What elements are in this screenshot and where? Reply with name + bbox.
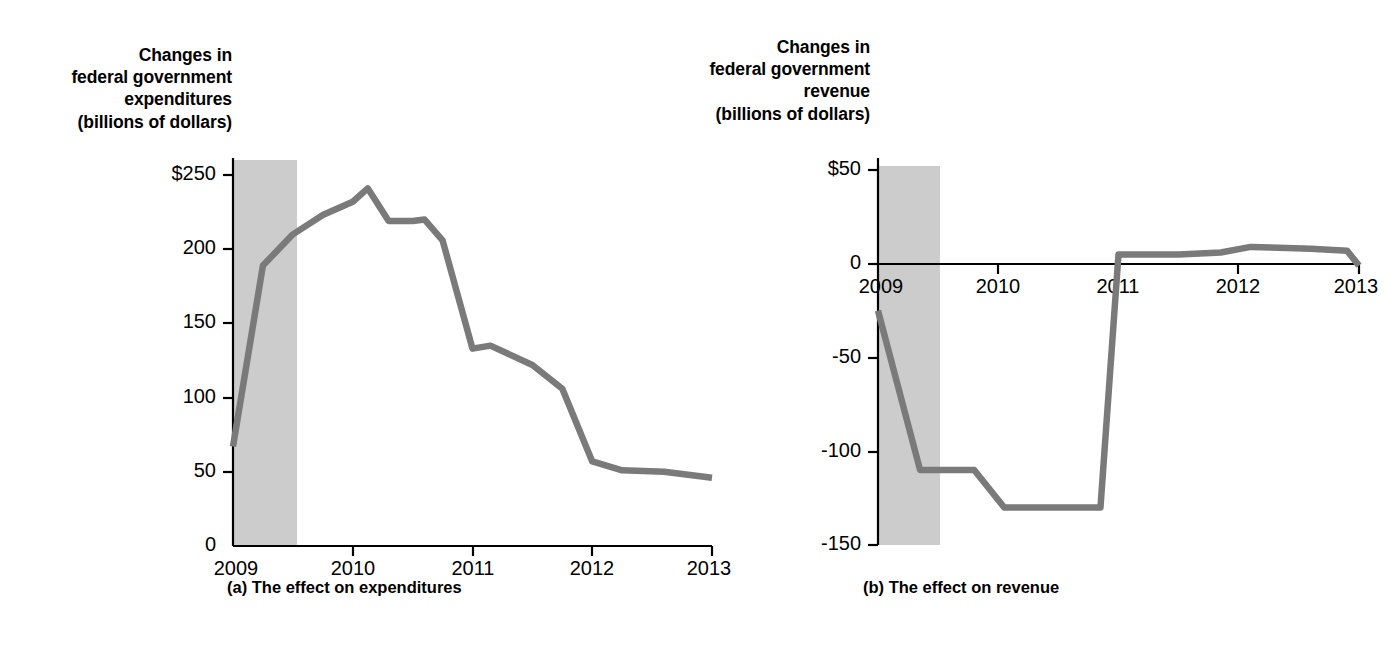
x-tick-marks (998, 264, 1359, 274)
y-tick-label: 0 (850, 251, 861, 273)
x-tick-label: 2010 (331, 557, 376, 579)
x-tick-label: 2013 (1334, 275, 1379, 297)
y-tick-label: -100 (821, 439, 861, 461)
recession-band (233, 160, 297, 546)
y-tick-label: 150 (183, 310, 216, 332)
y-tick-marks (868, 170, 878, 545)
panel-caption-revenue: (b) The effect on revenue (863, 578, 1059, 597)
x-tick-label: 2012 (1216, 275, 1261, 297)
x-tick-marks (353, 546, 712, 556)
data-line-revenue (878, 247, 1359, 508)
plot-area-revenue: $50 0 -50 -100 -150 2009 2010 2011 2012 … (740, 0, 1389, 600)
y-tick-marks (223, 175, 233, 472)
plot-area-expenditures: $250 200 150 100 50 0 2009 2010 2011 201… (0, 0, 740, 600)
y-tick-label: -50 (832, 345, 861, 367)
x-tick-label: 2009 (859, 275, 904, 297)
y-tick-label: $50 (828, 157, 861, 179)
data-line-expenditures (233, 188, 712, 477)
y-tick-label: 200 (183, 236, 216, 258)
x-tick-label: 2011 (451, 557, 494, 579)
x-tick-label: 2010 (976, 275, 1021, 297)
x-tick-label: 2012 (570, 557, 615, 579)
panel-expenditures: Changes in federal government expenditur… (0, 0, 740, 650)
y-tick-label: -150 (821, 532, 861, 554)
x-tick-label: 2013 (687, 557, 732, 579)
x-tick-label: 2009 (214, 557, 259, 579)
y-tick-label: $250 (172, 162, 217, 184)
panel-revenue: Changes in federal government revenue (b… (740, 0, 1389, 650)
y-tick-label: 50 (194, 459, 216, 481)
chart-svg-expenditures: $250 200 150 100 50 0 2009 2010 2011 201… (0, 0, 740, 600)
y-tick-label: 0 (205, 533, 216, 555)
panel-caption-expenditures: (a) The effect on expenditures (227, 578, 462, 597)
chart-svg-revenue: $50 0 -50 -100 -150 2009 2010 2011 2012 … (740, 0, 1389, 600)
figure-root: Changes in federal government expenditur… (0, 0, 1389, 650)
y-tick-label: 100 (183, 385, 216, 407)
